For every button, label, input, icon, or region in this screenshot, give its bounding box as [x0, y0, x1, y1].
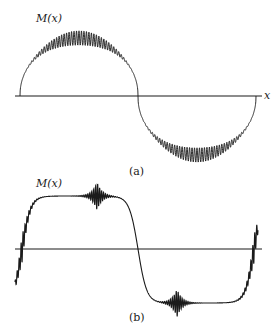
panel-a-x-label: x [264, 90, 270, 102]
panel-b-y-label: M(x) [36, 178, 62, 190]
panel-b [15, 184, 262, 316]
panel-a-y-label: M(x) [36, 13, 62, 25]
panel-a [15, 31, 262, 162]
panel-b-curve [15, 184, 258, 316]
panel-b-caption: (b) [129, 312, 145, 324]
panel-a-caption: (a) [129, 166, 144, 178]
